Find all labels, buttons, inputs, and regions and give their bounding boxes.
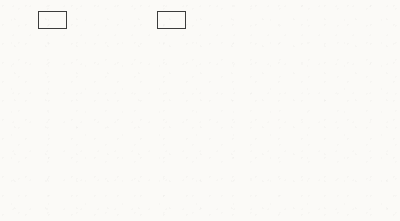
legend-item-nationalists [157, 9, 199, 31]
chart-page [0, 0, 400, 221]
chart-legend [0, 0, 400, 40]
stacked-area-chart [0, 38, 400, 221]
legend-swatch-icon-nationalists [157, 11, 186, 29]
chart-plot-area [0, 38, 400, 221]
legend-item-republicans [38, 9, 80, 31]
legend-swatch-icon-republicans [38, 11, 67, 29]
